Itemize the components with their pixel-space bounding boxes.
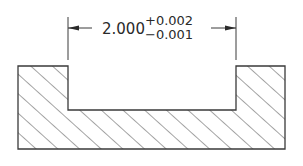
- dimension-upper-tolerance: +0.002: [145, 13, 193, 28]
- dimension-lower-tolerance: −0.001: [145, 27, 193, 42]
- channel-section: [18, 66, 285, 149]
- drawing-canvas: 2.000 +0.002 −0.001: [0, 0, 303, 166]
- arrowhead-left-icon: [68, 26, 79, 31]
- arrowhead-right-icon: [225, 26, 236, 31]
- dimension-nominal: 2.000: [102, 20, 145, 38]
